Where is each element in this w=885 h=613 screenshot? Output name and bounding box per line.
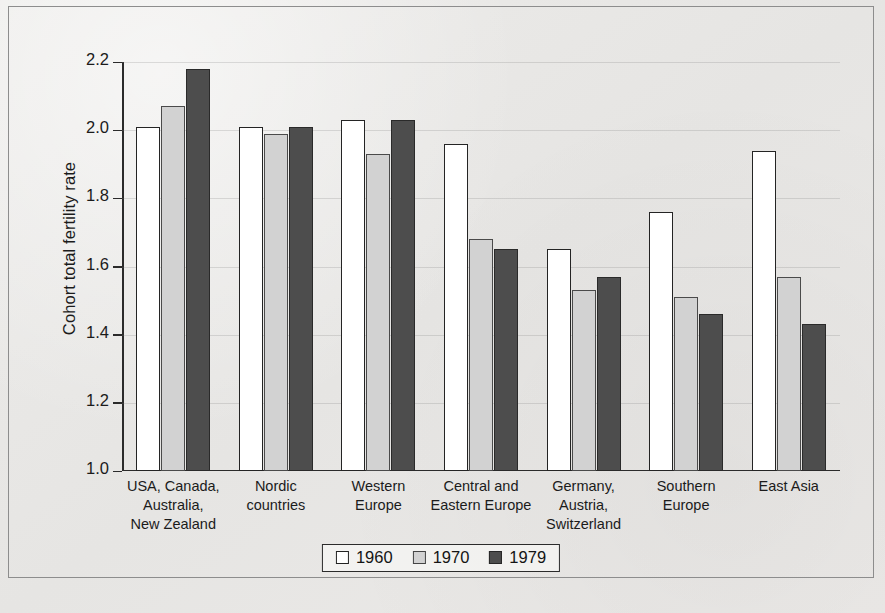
legend-item: 1970 xyxy=(413,548,470,567)
y-axis-tick-label: 1.2 xyxy=(86,391,109,410)
bar xyxy=(777,277,801,471)
bar-group xyxy=(430,62,533,471)
x-axis-tick-labels: USA, Canada,Australia,New ZealandNordicc… xyxy=(122,477,840,539)
plot-area: 1.01.21.41.61.82.02.2 xyxy=(122,62,840,471)
y-axis-tick-label: 1.4 xyxy=(86,323,109,342)
x-axis-tick-label-line: New Zealand xyxy=(122,515,225,534)
bar xyxy=(136,127,160,471)
bar-series-container xyxy=(122,62,840,471)
y-axis-tick-mark xyxy=(113,334,122,336)
x-axis-tick-label-line: Central and xyxy=(430,477,533,496)
bar xyxy=(161,106,185,471)
legend-swatch-icon xyxy=(413,551,426,564)
bar-group xyxy=(327,62,430,471)
bar xyxy=(444,144,468,471)
legend-label: 1970 xyxy=(433,548,470,567)
legend-swatch-icon xyxy=(336,551,349,564)
bar xyxy=(674,297,698,471)
legend-item: 1960 xyxy=(336,548,393,567)
chart-legend: 196019701979 xyxy=(322,544,560,572)
y-axis-tick-mark xyxy=(113,62,122,64)
bar xyxy=(597,277,621,471)
x-axis-tick-label: SouthernEurope xyxy=(635,477,738,515)
x-axis-tick-label-line: Germany, xyxy=(532,477,635,496)
bar xyxy=(752,151,776,471)
y-axis-tick-mark xyxy=(113,130,122,132)
legend-swatch-icon xyxy=(489,551,502,564)
x-axis-tick-label: USA, Canada,Australia,New Zealand xyxy=(122,477,225,534)
bar-group xyxy=(225,62,328,471)
y-axis-tick-label: 2.0 xyxy=(86,118,109,137)
legend-label: 1960 xyxy=(356,548,393,567)
x-axis-tick-label-line: USA, Canada, xyxy=(122,477,225,496)
y-axis-title: Cohort total fertility rate xyxy=(60,84,79,414)
x-axis-tick-label-line: Southern xyxy=(635,477,738,496)
y-axis-tick-mark xyxy=(113,471,122,473)
bar xyxy=(469,239,493,471)
x-axis-tick-label: East Asia xyxy=(737,477,840,496)
x-axis-tick-label-line: Eastern Europe xyxy=(430,496,533,515)
x-axis-tick-label-line: Nordic xyxy=(225,477,328,496)
y-axis-tick-label: 2.2 xyxy=(86,50,109,69)
x-axis-tick-label-line: Austria, xyxy=(532,496,635,515)
bar xyxy=(494,249,518,471)
x-axis-tick-label: Central andEastern Europe xyxy=(430,477,533,515)
bar xyxy=(391,120,415,471)
bar xyxy=(239,127,263,471)
x-axis-tick-label: Nordiccountries xyxy=(225,477,328,515)
y-axis-tick-label: 1.0 xyxy=(86,459,109,478)
legend-label: 1979 xyxy=(509,548,546,567)
y-axis-tick-mark xyxy=(113,198,122,200)
bar xyxy=(186,69,210,471)
bar xyxy=(341,120,365,471)
bar-group xyxy=(635,62,738,471)
x-axis-tick-label-line: Switzerland xyxy=(532,515,635,534)
bar xyxy=(264,134,288,471)
bar xyxy=(547,249,571,471)
y-axis-tick-label: 1.8 xyxy=(86,186,109,205)
bar xyxy=(366,154,390,471)
bar xyxy=(572,290,596,471)
y-axis-tick-mark xyxy=(113,266,122,268)
x-axis-tick-label-line: countries xyxy=(225,496,328,515)
chart-figure: Cohort total fertility rate 1.01.21.41.6… xyxy=(8,6,874,578)
x-axis-tick-label-line: Australia, xyxy=(122,496,225,515)
x-axis-tick-label: WesternEurope xyxy=(327,477,430,515)
x-axis-tick-label-line: East Asia xyxy=(737,477,840,496)
bar-group xyxy=(532,62,635,471)
bar-group xyxy=(122,62,225,471)
bar xyxy=(699,314,723,471)
bar xyxy=(649,212,673,471)
x-axis-tick-label-line: Europe xyxy=(635,496,738,515)
bar xyxy=(802,324,826,471)
bar xyxy=(289,127,313,471)
legend-item: 1979 xyxy=(489,548,546,567)
y-axis-tick-mark xyxy=(113,402,122,404)
x-axis-tick-label-line: Europe xyxy=(327,496,430,515)
x-axis-tick-label-line: Western xyxy=(327,477,430,496)
y-axis-tick-label: 1.6 xyxy=(86,255,109,274)
bar-group xyxy=(737,62,840,471)
x-axis-tick-label: Germany,Austria,Switzerland xyxy=(532,477,635,534)
